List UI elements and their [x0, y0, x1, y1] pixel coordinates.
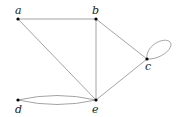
node-e: [94, 98, 97, 101]
label-a: a: [15, 4, 22, 17]
nodes: [16, 17, 148, 101]
graph-diagram: a b c d e: [0, 0, 190, 117]
edge-d-e-lower: [18, 100, 96, 105]
label-b: b: [92, 4, 99, 17]
edge-a-e: [18, 19, 96, 100]
label-c: c: [145, 60, 151, 73]
loop-c: [147, 40, 171, 59]
labels: a b c d e: [15, 4, 151, 116]
edge-c-e: [96, 59, 147, 100]
node-d: [16, 98, 19, 101]
node-a: [16, 17, 19, 20]
label-d: d: [15, 103, 22, 116]
node-b: [94, 17, 97, 20]
edge-b-c: [96, 19, 147, 59]
label-e: e: [92, 103, 99, 116]
edge-d-e-upper: [18, 96, 96, 101]
